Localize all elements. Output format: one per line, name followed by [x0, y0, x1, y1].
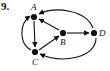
directed-graph-diagram: A B C D: [0, 0, 110, 71]
node-label-c: C: [32, 57, 39, 67]
edge-a-to-c: [34, 21, 35, 47]
node-d[interactable]: [91, 30, 97, 36]
edge-c-to-b: [39, 36, 59, 50]
figure-container: 9. A B C D: [0, 0, 110, 71]
edge-d-to-c: [40, 38, 96, 59]
node-label-a: A: [30, 2, 37, 12]
node-label-d: D: [98, 28, 106, 38]
edge-d-to-a: [39, 10, 93, 28]
node-a[interactable]: [31, 14, 37, 20]
node-label-b: B: [60, 37, 66, 47]
edge-b-to-a: [39, 19, 59, 30]
node-b[interactable]: [60, 30, 66, 36]
node-c[interactable]: [32, 49, 38, 55]
edge-c-to-a: [22, 16, 31, 50]
